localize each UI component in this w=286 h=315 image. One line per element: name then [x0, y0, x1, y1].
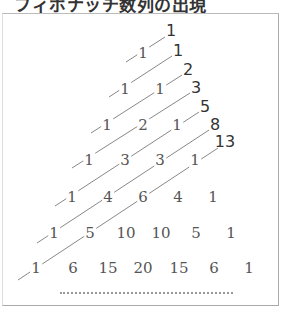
fibonacci-2: 2 [183, 62, 193, 78]
pascal-r3-c1: 3 [119, 152, 131, 168]
pascal-r4-c1: 4 [102, 189, 114, 205]
pascal-r1-c0: 1 [119, 81, 131, 97]
fibonacci-5: 8 [210, 117, 220, 133]
pascal-r3-c0: 1 [83, 152, 95, 168]
pascal-r2-c1: 2 [137, 117, 149, 133]
pascal-r1-c1: 1 [154, 81, 166, 97]
pascal-r6-c6: 1 [243, 260, 255, 276]
pascal-r4-c3: 4 [172, 189, 184, 205]
pascal-r2-c0: 1 [101, 117, 113, 133]
fibonacci-4: 5 [200, 99, 210, 115]
pascal-r5-c2: 10 [115, 225, 136, 241]
pascal-r5-c0: 1 [48, 225, 60, 241]
pascal-r6-c5: 6 [208, 260, 220, 276]
pascal-r5-c5: 1 [225, 225, 237, 241]
pascal-r6-c1: 6 [67, 260, 79, 276]
pascal-r6-c3: 20 [132, 260, 153, 276]
pascal-r2-c2: 1 [171, 117, 183, 133]
pascal-r3-c3: 1 [189, 152, 201, 168]
fibonacci-3: 3 [191, 80, 201, 96]
pascal-r6-c0: 1 [30, 260, 42, 276]
pascal-r4-c0: 1 [66, 189, 78, 205]
pascal-r0-c0: 1 [137, 45, 149, 61]
pascal-r5-c4: 5 [190, 225, 202, 241]
continuation-dots [60, 292, 233, 294]
pascal-r5-c3: 10 [150, 225, 171, 241]
pascal-r3-c2: 3 [154, 152, 166, 168]
pascal-r4-c4: 1 [207, 189, 219, 205]
pascal-r4-c2: 6 [137, 189, 149, 205]
fibonacci-1: 1 [173, 43, 183, 59]
pascal-r6-c2: 15 [97, 260, 118, 276]
pascal-r5-c1: 5 [84, 225, 96, 241]
fibonacci-6: 13 [215, 134, 235, 150]
fibonacci-0: 1 [166, 23, 176, 39]
pascal-r6-c4: 15 [168, 260, 189, 276]
